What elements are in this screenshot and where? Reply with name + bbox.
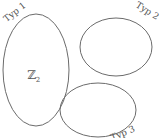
subscript-2: 2 [36,76,40,84]
ellipse-typ2 [80,18,152,76]
label-typ1: Typ 1 [2,0,28,24]
set-typ3: Typ 3 [60,83,137,138]
diagram-canvas: Typ 1 ℤ2 Typ 2 Typ 3 [0,0,160,138]
blackboard-z: ℤ [27,68,36,82]
label-typ2: Typ 2 [134,0,160,22]
set-typ1: Typ 1 ℤ2 [2,0,69,126]
label-typ3: Typ 3 [109,124,137,138]
set-element-z2: ℤ2 [27,68,40,84]
set-typ2: Typ 2 [80,0,160,76]
ellipse-typ1 [3,14,69,126]
